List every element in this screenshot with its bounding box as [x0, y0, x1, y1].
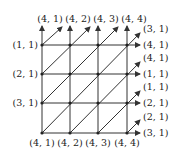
right-row-label: (4, 1) [143, 39, 169, 50]
bottom-label: (4, 4) [114, 137, 140, 148]
diagonal-lines [42, 27, 140, 133]
right-row-label: (3, 1) [143, 127, 169, 138]
bottom-label: (4, 3) [85, 137, 111, 148]
right-diag-label: (2, 1) [143, 111, 169, 122]
torus-grid-diagram: (4, 1) (4, 2) (4, 3) (4, 4) (4, 1) (4, 2… [0, 0, 175, 160]
left-label: (2, 1) [12, 68, 38, 79]
top-labels: (4, 1) (4, 2) (4, 3) (4, 4) [37, 13, 147, 24]
top-label: (4, 1) [37, 13, 63, 24]
right-row-label: (2, 1) [143, 97, 169, 108]
right-diag-label: (4, 1) [143, 52, 169, 63]
bottom-label: (4, 2) [57, 137, 83, 148]
left-label: (3, 1) [12, 97, 38, 108]
bottom-label: (4, 1) [29, 137, 55, 148]
right-diag-label: (1, 1) [143, 81, 169, 92]
top-label: (4, 2) [65, 13, 91, 24]
left-labels: (1, 1) (2, 1) (3, 1) [12, 39, 38, 108]
right-diag-label: (3, 1) [143, 23, 169, 34]
right-row-label: (1, 1) [143, 68, 169, 79]
bottom-labels: (4, 1) (4, 2) (4, 3) (4, 4) [29, 137, 140, 148]
left-label: (1, 1) [12, 39, 38, 50]
top-label: (4, 3) [93, 13, 119, 24]
